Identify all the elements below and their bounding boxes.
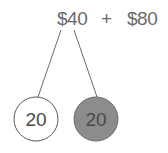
split-diagram: 20 20 — [0, 0, 168, 153]
circle-node-left: 20 — [14, 97, 58, 141]
branch-line-left — [38, 30, 61, 97]
circle-left-label: 20 — [25, 109, 46, 130]
branch-line-right — [74, 30, 97, 97]
circle-node-right: 20 — [74, 97, 118, 141]
circle-right-label: 20 — [85, 109, 106, 130]
